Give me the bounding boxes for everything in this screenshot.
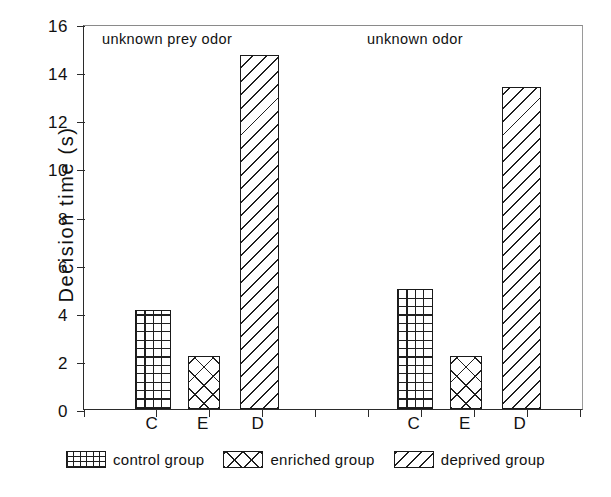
y-tick-label-16: 16 — [48, 17, 68, 37]
legend-swatch-diag-icon — [394, 451, 434, 468]
group-title-right: unknown odor — [367, 31, 463, 47]
y-tick-label-0: 0 — [58, 402, 68, 422]
y-tick-label-10: 10 — [48, 161, 68, 181]
chart-legend: control group enriched group deprived gr… — [0, 451, 611, 468]
x-tick-8 — [527, 409, 528, 417]
x-tick-0 — [84, 409, 85, 417]
bar-odor-deprived — [502, 87, 541, 410]
x-tick-7 — [474, 409, 475, 417]
plot-area: 16 14 12 10 8 6 4 2 0 unknown prey odor … — [83, 25, 583, 410]
bar-prey-deprived — [240, 55, 279, 409]
y-tick-6: 6 — [77, 267, 85, 268]
y-tick-label-14: 14 — [48, 65, 68, 85]
y-tick-10: 10 — [77, 170, 85, 171]
legend-entry-deprived: deprived group — [394, 451, 545, 468]
y-tick-label-6: 6 — [58, 257, 68, 277]
y-tick-label-8: 8 — [58, 209, 68, 229]
x-tick-6 — [421, 409, 422, 417]
group-title-left: unknown prey odor — [102, 31, 232, 47]
bar-prey-enriched — [188, 356, 220, 409]
legend-entry-enriched: enriched group — [223, 451, 374, 468]
x-label-prey-control: C — [146, 414, 159, 434]
bar-chart-figure: Decision time (s) 16 14 12 10 8 6 4 2 0 … — [0, 0, 611, 497]
x-tick-2 — [209, 409, 210, 417]
y-tick-12: 12 — [77, 122, 85, 123]
legend-label-control: control group — [113, 451, 204, 468]
y-tick-2: 2 — [77, 363, 85, 364]
legend-label-deprived: deprived group — [441, 451, 545, 468]
legend-label-enriched: enriched group — [270, 451, 374, 468]
legend-swatch-grid-icon — [66, 451, 106, 468]
legend-swatch-cross-icon — [223, 451, 263, 468]
x-label-odor-control: C — [408, 414, 421, 434]
x-label-odor-deprived: D — [514, 414, 527, 434]
bar-prey-control — [135, 310, 171, 409]
y-tick-label-4: 4 — [58, 305, 68, 325]
y-tick-label-2: 2 — [58, 353, 68, 373]
legend-entry-control: control group — [66, 451, 204, 468]
y-tick-14: 14 — [77, 74, 85, 75]
x-tick-9 — [580, 409, 581, 417]
x-tick-5 — [368, 409, 369, 417]
x-label-prey-deprived: D — [252, 414, 265, 434]
y-tick-16: 16 — [77, 26, 85, 27]
x-label-prey-enriched: E — [197, 414, 209, 434]
x-label-odor-enriched: E — [459, 414, 471, 434]
bar-odor-enriched — [450, 356, 482, 409]
x-tick-4 — [315, 409, 316, 417]
y-tick-4: 4 — [77, 315, 85, 316]
bar-odor-control — [397, 289, 433, 409]
y-tick-label-12: 12 — [48, 113, 68, 133]
y-tick-8: 8 — [77, 219, 85, 220]
